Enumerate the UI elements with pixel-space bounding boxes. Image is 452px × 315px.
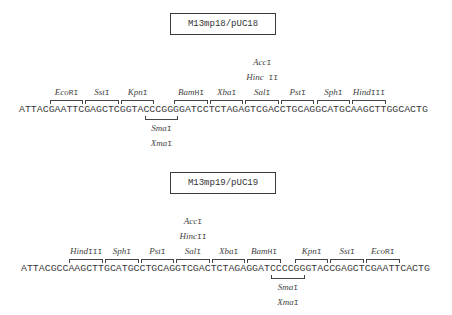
- enzyme-name-italic: Sal: [185, 246, 197, 256]
- enzyme-label-extra: Hinc II: [246, 72, 278, 83]
- sequence-m13mp19: ATTACGCCAAGCTTGCATGCCTGCAGGTCGACTCTAGAGG…: [21, 263, 430, 275]
- enzyme-name-roman: I: [196, 247, 201, 256]
- enzyme-name-roman: HI: [194, 88, 204, 97]
- enzyme-name-italic: Sst: [339, 246, 350, 256]
- enzyme-name-italic: Xma: [151, 138, 168, 148]
- site-bracket-above: [85, 100, 119, 104]
- enzyme-label: PstI: [290, 87, 306, 98]
- site-bracket-above: [245, 100, 279, 104]
- enzyme-name-roman: I: [266, 58, 271, 67]
- site-bracket-above: [141, 259, 175, 263]
- enzyme-name-italic: Acc: [253, 57, 267, 67]
- enzyme-name-roman: II: [264, 73, 278, 82]
- enzyme-name-italic: Sal: [254, 87, 266, 97]
- enzyme-label: XbaI: [219, 246, 238, 257]
- enzyme-label: PstI: [149, 246, 165, 257]
- enzyme-name-italic: Kpn: [302, 246, 317, 256]
- enzyme-name-roman: I: [301, 88, 306, 97]
- enzyme-label: KpnI: [128, 87, 148, 98]
- enzyme-name-roman: HI: [268, 247, 278, 256]
- site-bracket-above: [69, 259, 103, 263]
- enzyme-label: SalI: [185, 246, 201, 257]
- enzyme-label-extra: HincII: [179, 231, 206, 242]
- enzyme-name-italic: Hinc: [246, 72, 264, 82]
- enzyme-name-roman: II: [197, 232, 207, 241]
- enzyme-label-below: SmaI: [278, 282, 298, 293]
- enzyme-name-roman: I: [167, 124, 172, 133]
- enzyme-name-italic: Sph: [113, 246, 127, 256]
- title-box-m13mp19: M13mp19/pUC19: [170, 172, 276, 194]
- enzyme-name-italic: Acc: [184, 216, 198, 226]
- enzyme-name-italic: Xba: [217, 87, 232, 97]
- enzyme-label: SphI: [113, 246, 131, 257]
- site-bracket-above: [281, 100, 315, 104]
- site-bracket-below: [271, 275, 305, 279]
- title-box-m13mp18: M13mp18/pUC18: [170, 13, 276, 35]
- site-bracket-above: [366, 259, 400, 263]
- enzyme-label: SphI: [324, 87, 342, 98]
- enzyme-label: BamHI: [178, 87, 204, 98]
- site-bracket-above: [247, 259, 281, 263]
- site-bracket-above: [50, 100, 84, 104]
- enzyme-name-italic: Eco: [371, 246, 385, 256]
- site-bracket-above: [295, 259, 329, 263]
- enzyme-name-italic: Hinc: [179, 231, 197, 241]
- enzyme-name-roman: I: [143, 88, 148, 97]
- enzyme-name-italic: Xba: [219, 246, 234, 256]
- enzyme-name-roman: RI: [69, 88, 79, 97]
- enzyme-name-roman: III: [88, 247, 102, 256]
- site-bracket-above: [212, 259, 246, 263]
- enzyme-name-italic: Sst: [94, 87, 105, 97]
- enzyme-name-roman: I: [293, 283, 298, 292]
- site-bracket-above: [330, 259, 364, 263]
- enzyme-name-roman: I: [294, 298, 299, 307]
- enzyme-label-extra: AccI: [253, 57, 271, 68]
- site-bracket-above: [121, 100, 155, 104]
- enzyme-name-italic: Sma: [278, 282, 294, 292]
- enzyme-label: BamHI: [251, 246, 277, 257]
- enzyme-name-italic: Xma: [277, 297, 294, 307]
- enzyme-label: SstI: [94, 87, 109, 98]
- enzyme-name-roman: I: [233, 247, 238, 256]
- enzyme-name-italic: Eco: [55, 87, 69, 97]
- enzyme-name-roman: RI: [385, 247, 395, 256]
- enzyme-label: HindIII: [70, 246, 102, 257]
- enzyme-label: SstI: [339, 246, 354, 257]
- enzyme-name-italic: Hind: [70, 246, 88, 256]
- enzyme-name-italic: Pst: [290, 87, 302, 97]
- enzyme-name-roman: I: [126, 247, 131, 256]
- enzyme-label-extra: AccI: [184, 216, 202, 227]
- enzyme-label: HindIII: [353, 87, 385, 98]
- sequence-m13mp18: ATTACGAATTCGAGCTCGGTACCCGGGGATCCTCTAGAGT…: [19, 104, 428, 116]
- enzyme-name-roman: I: [317, 247, 322, 256]
- site-bracket-above: [210, 100, 244, 104]
- enzyme-label: SalI: [254, 87, 270, 98]
- enzyme-name-roman: I: [197, 217, 202, 226]
- enzyme-name-italic: Sma: [151, 123, 167, 133]
- enzyme-label-below: XmaI: [277, 297, 298, 308]
- enzyme-label: KpnI: [302, 246, 322, 257]
- enzyme-name-roman: I: [350, 247, 355, 256]
- enzyme-label-below: XmaI: [151, 138, 172, 149]
- enzyme-name-roman: I: [265, 88, 270, 97]
- site-bracket-above: [352, 100, 386, 104]
- enzyme-name-italic: Kpn: [128, 87, 143, 97]
- enzyme-name-roman: III: [371, 88, 385, 97]
- enzyme-name-roman: I: [161, 247, 166, 256]
- enzyme-label: EcoRI: [371, 246, 395, 257]
- site-bracket-above: [105, 259, 139, 263]
- site-bracket-above: [176, 259, 210, 263]
- enzyme-name-italic: Hind: [353, 87, 371, 97]
- enzyme-name-italic: Sph: [324, 87, 338, 97]
- site-bracket-below: [145, 116, 179, 120]
- enzyme-label: XbaI: [217, 87, 236, 98]
- enzyme-name-roman: I: [105, 88, 110, 97]
- enzyme-name-roman: I: [231, 88, 236, 97]
- enzyme-label-below: SmaI: [151, 123, 171, 134]
- enzyme-name-roman: I: [338, 88, 343, 97]
- enzyme-label: EcoRI: [55, 87, 79, 98]
- enzyme-name-italic: Bam: [178, 87, 195, 97]
- enzyme-name-italic: Bam: [251, 246, 268, 256]
- enzyme-name-roman: I: [167, 139, 172, 148]
- site-bracket-above: [317, 100, 351, 104]
